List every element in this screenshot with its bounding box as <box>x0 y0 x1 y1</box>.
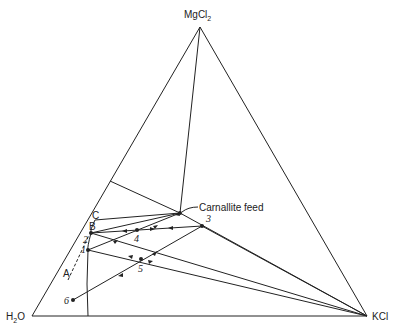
3-to-kcl-line <box>202 226 367 316</box>
point-2-label: 2 <box>83 234 88 245</box>
point-6-label: 6 <box>64 295 69 306</box>
c-tie-line <box>95 213 180 220</box>
point-5-label: 5 <box>138 263 143 274</box>
b-to-kcl-line <box>91 233 367 316</box>
carnallite-feed-label: Carnallite feed <box>199 202 263 213</box>
point-3-label: 3 <box>205 213 211 224</box>
point-1-label: 1 <box>81 244 86 255</box>
triangle-outline <box>32 27 367 316</box>
point-a-label: A <box>63 268 70 279</box>
ternary-diagram: MgCl2 H2O KCl Carnallite feed C B A 3 4 … <box>0 0 399 331</box>
vertex-label-h2o: H2O <box>6 311 25 324</box>
carnallite-leader <box>182 207 198 212</box>
point-c-label: C <box>92 210 99 221</box>
vertex-label-kcl: KCl <box>372 311 388 322</box>
upper-tie-line <box>110 181 180 213</box>
point-b-label: B <box>89 221 96 232</box>
vertex-label-mgcl2: MgCl2 <box>184 9 211 22</box>
1-to-kcl-line <box>88 250 367 316</box>
1-to-carnallite <box>88 213 180 250</box>
apex-to-carnallite-line <box>180 27 200 213</box>
point-4-label: 4 <box>134 233 139 244</box>
